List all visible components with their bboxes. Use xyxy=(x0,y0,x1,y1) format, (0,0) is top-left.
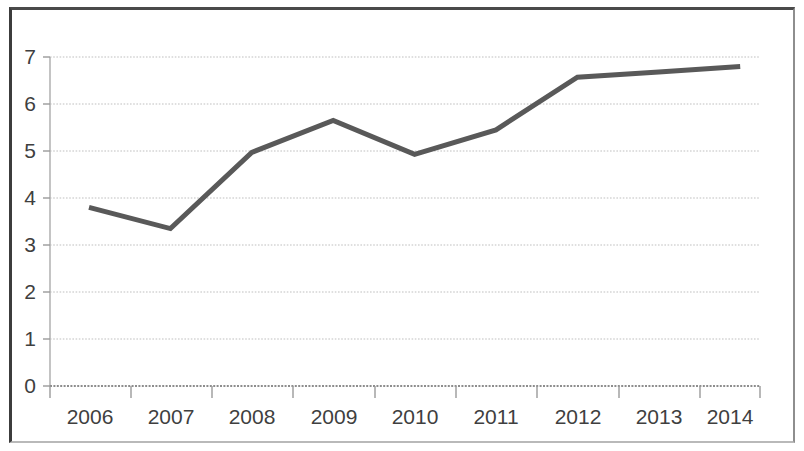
x-tick-label-2012: 2012 xyxy=(533,406,623,427)
y-tick-label-4: 4 xyxy=(6,187,36,208)
x-tick-label-2014: 2014 xyxy=(685,406,775,427)
y-tick-label-1: 1 xyxy=(6,328,36,349)
plot-area xyxy=(0,0,804,451)
x-tick-label-2009: 2009 xyxy=(289,406,379,427)
y-tick-label-0: 0 xyxy=(6,375,36,396)
x-tick-label-2011: 2011 xyxy=(451,406,541,427)
x-tick-label-2007: 2007 xyxy=(126,406,216,427)
x-tick-label-2010: 2010 xyxy=(370,406,460,427)
x-tick-mark-group xyxy=(50,386,760,398)
x-tick-label-2006: 2006 xyxy=(45,406,135,427)
y-tick-label-5: 5 xyxy=(6,140,36,161)
x-tick-label-2008: 2008 xyxy=(207,406,297,427)
data-series-line xyxy=(89,66,740,228)
y-tick-mark-group xyxy=(43,57,50,386)
y-tick-label-3: 3 xyxy=(6,234,36,255)
y-tick-label-7: 7 xyxy=(6,46,36,67)
gridline-group xyxy=(50,57,760,339)
y-tick-label-2: 2 xyxy=(6,281,36,302)
y-tick-label-6: 6 xyxy=(6,93,36,114)
line-chart-figure: 7 6 5 4 3 2 1 0 2006 2007 2008 2009 2010… xyxy=(0,0,804,451)
